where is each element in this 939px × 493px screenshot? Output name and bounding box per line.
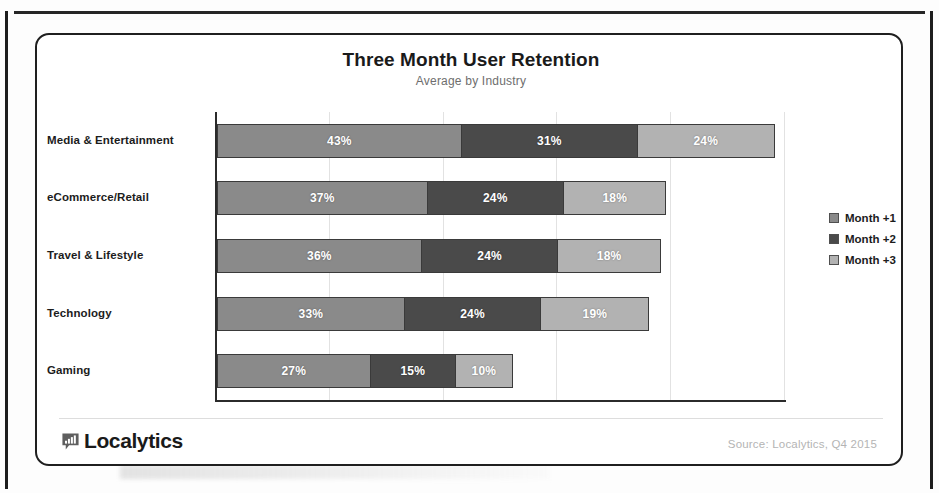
- scan-artifact: [120, 465, 550, 479]
- page-border-left: [5, 11, 8, 489]
- legend-swatch: [829, 255, 839, 265]
- bar-value-label: 18%: [602, 191, 627, 205]
- page-border-top: [14, 11, 925, 14]
- bar-value-label: 24%: [483, 191, 508, 205]
- bar-row[interactable]: 27%15%10%: [217, 354, 513, 388]
- legend-item[interactable]: Month +2: [829, 228, 903, 249]
- bar-value-label: 18%: [597, 249, 622, 263]
- bar-segment[interactable]: 19%: [541, 297, 649, 331]
- plot-area: 43%31%24%37%24%18%36%24%18%33%24%19%27%1…: [215, 112, 786, 402]
- legend-label: Month +1: [845, 212, 896, 224]
- legend-swatch: [829, 234, 839, 244]
- bar-row[interactable]: 36%24%18%: [217, 239, 661, 273]
- source-note: Source: Localytics, Q4 2015: [728, 438, 877, 450]
- bar-value-label: 31%: [537, 134, 562, 148]
- bar-value-label: 37%: [310, 191, 335, 205]
- bar-segment[interactable]: 15%: [371, 354, 456, 388]
- bar-segment[interactable]: 27%: [217, 354, 371, 388]
- bar-segment[interactable]: 24%: [428, 181, 565, 215]
- legend-item[interactable]: Month +1: [829, 207, 903, 228]
- bar-segment[interactable]: 10%: [456, 354, 513, 388]
- category-label: Media & Entertainment: [47, 134, 215, 146]
- bar-segment[interactable]: 18%: [564, 181, 666, 215]
- category-axis-labels: Media & EntertainmenteCommerce/RetailTra…: [47, 112, 215, 402]
- bar-value-label: 27%: [282, 364, 307, 378]
- bar-segment[interactable]: 33%: [217, 297, 405, 331]
- bar-value-label: 10%: [472, 364, 497, 378]
- page-border-right: [930, 11, 933, 489]
- legend-swatch: [829, 213, 839, 223]
- brand-logo: Localytics: [61, 429, 183, 453]
- chart-card: Three Month User Retention Average by In…: [35, 33, 903, 466]
- footer-divider: [59, 418, 883, 419]
- bar-segment[interactable]: 18%: [558, 239, 660, 273]
- category-label: Gaming: [47, 364, 215, 376]
- bar-segment[interactable]: 31%: [462, 124, 638, 158]
- bar-segment[interactable]: 24%: [405, 297, 542, 331]
- legend-label: Month +2: [845, 233, 896, 245]
- legend-item[interactable]: Month +3: [829, 249, 903, 270]
- legend-label: Month +3: [845, 254, 896, 266]
- bar-segment[interactable]: 36%: [217, 239, 422, 273]
- category-label: Technology: [47, 307, 215, 319]
- bar-segment[interactable]: 24%: [638, 124, 775, 158]
- bar-value-label: 33%: [299, 307, 324, 321]
- bar-value-label: 43%: [327, 134, 352, 148]
- bar-value-label: 24%: [693, 134, 718, 148]
- chart-subtitle: Average by Industry: [37, 74, 903, 88]
- bar-row[interactable]: 43%31%24%: [217, 124, 775, 158]
- axis-line-bottom: [215, 400, 786, 402]
- bar-segment[interactable]: 43%: [217, 124, 462, 158]
- bar-value-label: 36%: [307, 249, 332, 263]
- category-label: eCommerce/Retail: [47, 191, 215, 203]
- bar-row[interactable]: 37%24%18%: [217, 181, 666, 215]
- scanned-page: Three Month User Retention Average by In…: [0, 0, 939, 493]
- category-label: Travel & Lifestyle: [47, 249, 215, 261]
- gridline: [784, 112, 785, 400]
- bar-value-label: 15%: [400, 364, 425, 378]
- bar-segment[interactable]: 37%: [217, 181, 428, 215]
- bar-row[interactable]: 33%24%19%: [217, 297, 649, 331]
- brand-name: Localytics: [84, 429, 183, 453]
- bar-chart-speech-bubble-icon: [61, 432, 80, 451]
- bar-segment[interactable]: 24%: [422, 239, 559, 273]
- chart-legend: Month +1Month +2Month +3: [829, 207, 903, 270]
- title-block: Three Month User Retention Average by In…: [37, 49, 903, 88]
- chart-title: Three Month User Retention: [37, 49, 903, 71]
- bar-value-label: 24%: [477, 249, 502, 263]
- bar-value-label: 24%: [460, 307, 485, 321]
- bar-value-label: 19%: [583, 307, 608, 321]
